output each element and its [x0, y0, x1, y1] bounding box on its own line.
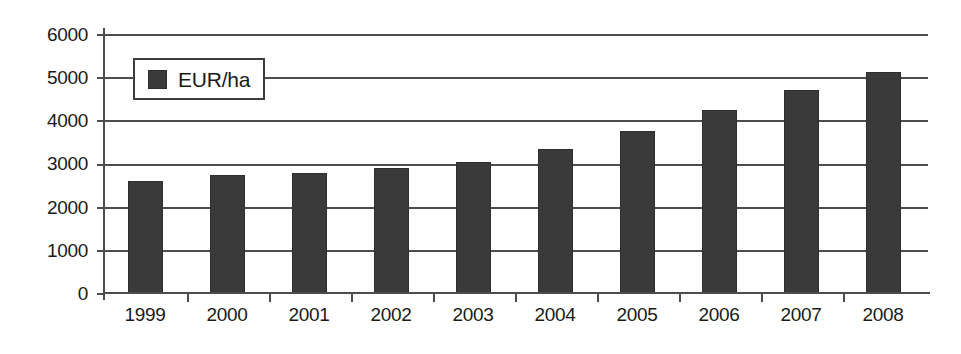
x-tick-mark [679, 293, 681, 302]
y-axis-label: 4000 [12, 111, 88, 130]
x-tick-mark [433, 293, 435, 302]
x-axis-label-2007: 2007 [761, 304, 841, 326]
bar-2003[interactable] [456, 162, 491, 293]
y-tick-mark [97, 207, 105, 209]
y-tick-mark [97, 77, 105, 79]
gridline [105, 34, 928, 36]
bar-1999[interactable] [128, 181, 163, 293]
chart-legend[interactable]: EUR/ha [133, 58, 265, 100]
x-axis-label-2001: 2001 [269, 304, 349, 326]
y-axis-label: 1000 [12, 241, 88, 260]
legend-label: EUR/ha [178, 69, 250, 90]
x-tick-mark [761, 293, 763, 302]
y-tick-mark [97, 250, 105, 252]
y-tick-mark [97, 120, 105, 122]
x-axis-label-1999: 1999 [105, 304, 185, 326]
x-axis-label-2006: 2006 [679, 304, 759, 326]
bar-2002[interactable] [374, 168, 409, 293]
x-tick-mark [843, 293, 845, 302]
bar-2004[interactable] [538, 149, 573, 293]
x-tick-mark [515, 293, 517, 302]
bar-2005[interactable] [620, 131, 655, 293]
x-axis-label-2008: 2008 [843, 304, 923, 326]
bar-2008[interactable] [866, 72, 901, 293]
bar-2006[interactable] [702, 110, 737, 293]
x-axis-label-2000: 2000 [187, 304, 267, 326]
y-axis-label: 2000 [12, 198, 88, 217]
y-tick-mark [97, 34, 105, 36]
bar-chart: 6000 5000 4000 3000 2000 1000 0 1999 200… [0, 0, 961, 354]
x-axis-label-2002: 2002 [351, 304, 431, 326]
y-axis-labels: 6000 5000 4000 3000 2000 1000 0 [8, 0, 88, 354]
y-axis-label: 3000 [12, 154, 88, 173]
x-axis-label-2004: 2004 [515, 304, 595, 326]
x-tick-mark [351, 293, 353, 302]
bar-2007[interactable] [784, 90, 819, 293]
x-tick-mark [597, 293, 599, 302]
y-axis-label: 6000 [12, 25, 88, 44]
x-axis-label-2005: 2005 [597, 304, 677, 326]
y-axis-label: 0 [12, 284, 88, 303]
legend-swatch-icon [148, 70, 167, 89]
x-tick-mark [187, 293, 189, 302]
y-axis-label: 5000 [12, 68, 88, 87]
bar-2000[interactable] [210, 175, 245, 293]
bar-2001[interactable] [292, 173, 327, 293]
x-axis-label-2003: 2003 [433, 304, 513, 326]
x-tick-mark [269, 293, 271, 302]
y-tick-mark [97, 164, 105, 166]
